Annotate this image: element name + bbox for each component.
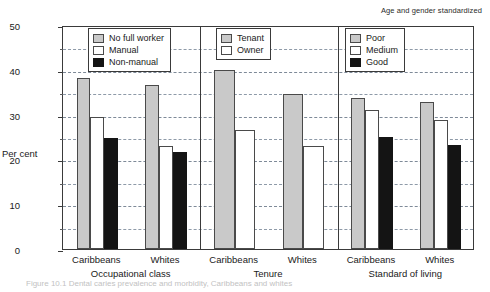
y-axis-minor-tick: [60, 139, 63, 140]
y-axis-tick: [58, 72, 63, 73]
gridline: [63, 184, 473, 185]
legend-label: Tenant: [237, 33, 264, 44]
legend-label: No full worker: [109, 33, 164, 44]
legend-swatch-gray: [221, 34, 232, 43]
y-axis-tick: [58, 206, 63, 207]
legend-item: No full worker: [93, 32, 164, 44]
y-axis-minor-tick: [60, 184, 63, 185]
legend-occupational-class: No full workerManualNon-manual: [88, 28, 171, 72]
bar-poor: [420, 102, 434, 249]
y-axis-tick-label: 20: [0, 155, 20, 166]
y-axis-tick: [58, 117, 63, 118]
y-axis-tick-label: 40: [0, 65, 20, 76]
bar-good: [379, 137, 393, 249]
gridline: [63, 161, 473, 162]
figure-caption: Figure 10.1 Dental caries prevalence and…: [26, 279, 466, 288]
legend-swatch-white: [221, 46, 232, 55]
panel-label: Standard of living: [369, 268, 442, 279]
y-axis-tick-label: 30: [0, 110, 20, 121]
panel-label: Occupational class: [91, 268, 171, 279]
figure-bar-chart: Age and gender standardized Per cent 010…: [0, 0, 490, 292]
legend-swatch-gray: [93, 34, 104, 43]
y-axis-minor-tick: [60, 94, 63, 95]
bar-tenant: [214, 70, 235, 249]
y-axis-tick-label: 50: [0, 21, 20, 32]
group-label: Caribbeans: [209, 254, 258, 265]
bar-medium: [434, 120, 448, 249]
gridline: [63, 229, 473, 230]
legend-label: Owner: [237, 45, 264, 56]
gridline: [63, 206, 473, 207]
bar-poor: [351, 98, 365, 249]
bar-non-manual: [104, 138, 118, 249]
bar-no-full-worker: [77, 78, 91, 249]
legend-swatch-black: [93, 58, 104, 67]
bar-good: [448, 145, 462, 249]
bar-manual: [159, 146, 173, 249]
gridline: [63, 117, 473, 118]
gridline: [63, 139, 473, 140]
legend-item: Tenant: [221, 32, 264, 44]
legend-label: Medium: [366, 45, 398, 56]
legend-label: Manual: [109, 45, 139, 56]
y-axis-minor-tick: [60, 49, 63, 50]
legend-tenure: TenantOwner: [216, 28, 271, 60]
group-label: Whites: [150, 254, 179, 265]
bar-medium: [365, 110, 379, 249]
bar-tenant: [283, 94, 304, 249]
legend-item: Owner: [221, 44, 264, 56]
y-axis-tick-label: 10: [0, 200, 20, 211]
legend-item: Non-manual: [93, 56, 164, 68]
legend-label: Poor: [366, 33, 385, 44]
group-label: Caribbeans: [347, 254, 396, 265]
legend-swatch-black: [350, 58, 361, 67]
legend-item: Poor: [350, 32, 398, 44]
panel-label: Tenure: [253, 268, 282, 279]
legend-item: Manual: [93, 44, 164, 56]
gridline: [63, 94, 473, 95]
y-axis-tick: [58, 27, 63, 28]
legend-label: Non-manual: [109, 57, 158, 68]
group-label: Caribbeans: [72, 254, 121, 265]
bar-non-manual: [173, 152, 187, 249]
legend-standard-of-living: PoorMediumGood: [345, 28, 405, 72]
legend-item: Good: [350, 56, 398, 68]
legend-swatch-white: [93, 46, 104, 55]
legend-swatch-white: [350, 46, 361, 55]
panel-divider: [200, 27, 201, 249]
y-axis-tick: [58, 161, 63, 162]
bar-owner: [235, 130, 256, 249]
legend-swatch-gray: [350, 34, 361, 43]
bar-owner: [303, 146, 324, 249]
y-axis-tick-label: 0: [0, 245, 20, 256]
y-axis-minor-tick: [60, 229, 63, 230]
group-label: Whites: [425, 254, 454, 265]
bar-manual: [90, 117, 104, 249]
legend-label: Good: [366, 57, 388, 68]
y-axis-tick: [58, 251, 63, 252]
bar-no-full-worker: [145, 85, 159, 249]
legend-item: Medium: [350, 44, 398, 56]
group-label: Whites: [288, 254, 317, 265]
panel-divider: [338, 27, 339, 249]
standardization-note: Age and gender standardized: [381, 6, 482, 15]
